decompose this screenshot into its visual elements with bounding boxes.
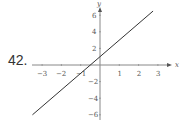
y-tick-label: −4 — [88, 95, 99, 103]
x-tick-label: 2 — [137, 70, 141, 78]
x-tick-label: −2 — [56, 70, 66, 78]
y-tick-label: −6 — [88, 111, 99, 119]
x-tick-label: −3 — [37, 70, 47, 78]
x-tick-label: 3 — [156, 70, 160, 78]
y-tick-label: 4 — [92, 28, 97, 36]
x-tick-label: −1 — [76, 70, 86, 78]
line-chart: x y −3 −2 −1 1 2 3 6 4 2 −2 −4 −6 — [0, 0, 183, 130]
y-tick-label: 6 — [92, 12, 97, 20]
y-tick-label: −2 — [88, 78, 98, 86]
x-tick-label: 1 — [118, 70, 122, 78]
x-axis-label: x — [175, 61, 179, 69]
y-axis-label: y — [96, 0, 102, 8]
x-axis-arrow-icon — [167, 63, 172, 67]
y-tick-label: 2 — [92, 45, 96, 53]
